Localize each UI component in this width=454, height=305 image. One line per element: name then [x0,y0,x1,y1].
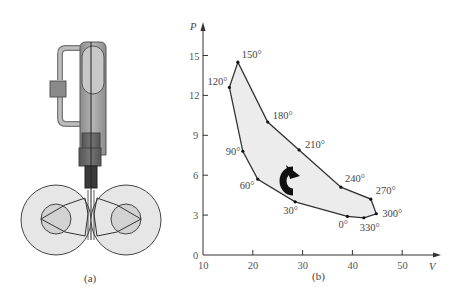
data-point-marker [362,216,365,219]
data-point-marker [266,120,269,123]
crank-angle-label: 300° [382,208,402,219]
svg-text:P: P [189,21,197,32]
data-point-marker [369,198,372,201]
crank-angle-label: 0° [338,219,347,230]
panel-b-caption: (b) [312,270,325,282]
svg-text:3: 3 [193,210,198,221]
svg-text:20: 20 [248,260,258,271]
data-point-marker [346,215,349,218]
svg-text:12: 12 [189,90,200,101]
data-point-marker [241,150,244,153]
svg-text:9: 9 [193,130,198,141]
crank-angle-label: 120° [207,76,227,87]
svg-text:V: V [429,261,437,272]
svg-text:50: 50 [397,260,408,271]
data-point-marker [339,186,342,189]
svg-text:0: 0 [193,250,198,261]
data-point-marker [256,178,259,181]
panel-b-pv-chart: PV102030405003691215 0°30°60°90°120°150°… [0,0,454,305]
data-point-marker [228,86,231,89]
crank-angle-label: 240° [345,173,365,184]
data-point-marker [375,212,378,215]
data-point-marker [294,200,297,203]
crank-angle-label: 90° [226,146,241,157]
crank-angle-label: 270° [376,185,396,196]
svg-text:6: 6 [193,170,198,181]
svg-text:10: 10 [198,260,209,271]
crank-angle-label: 60° [240,180,255,191]
crank-angle-label: 150° [242,49,262,60]
crank-angle-label: 180° [273,110,293,121]
data-point-marker [236,61,239,64]
data-point-marker [298,148,301,151]
svg-text:15: 15 [189,51,200,62]
svg-text:40: 40 [347,260,358,271]
pv-cycle-loop [229,62,376,218]
svg-text:30: 30 [298,260,309,271]
crank-angle-label: 30° [283,205,298,216]
crank-angle-label: 210° [305,139,325,150]
crank-angle-label: 330° [360,222,380,233]
